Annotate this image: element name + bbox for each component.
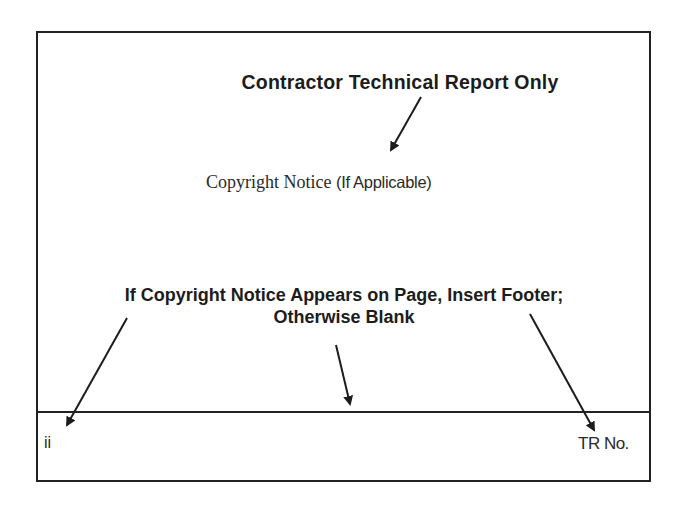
- footer-instruction-line-2: Otherwise Blank: [40, 306, 648, 328]
- copyright-notice: Copyright Notice (If Applicable): [206, 172, 496, 193]
- page-frame: [36, 31, 651, 482]
- footer-report-number: TR No.: [578, 434, 629, 454]
- copyright-notice-label: Copyright Notice: [206, 172, 336, 192]
- copyright-notice-qualifier: (If Applicable): [336, 173, 431, 191]
- footer-instruction-line-1: If Copyright Notice Appears on Page, Ins…: [40, 284, 648, 306]
- footer-page-number: ii: [44, 434, 51, 452]
- footer-instruction: If Copyright Notice Appears on Page, Ins…: [40, 284, 648, 328]
- document-title: Contractor Technical Report Only: [200, 71, 600, 94]
- footer-rule: [36, 411, 651, 413]
